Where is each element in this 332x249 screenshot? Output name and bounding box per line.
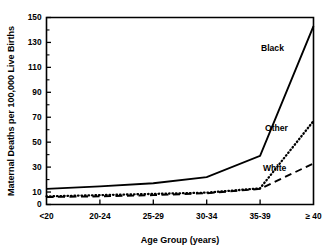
x-tick-label: ≥ 40 xyxy=(305,211,321,221)
x-tick-label: <20 xyxy=(39,211,53,221)
x-tick-label: 25-29 xyxy=(143,211,165,221)
y-axis: 01030507090110130150 xyxy=(28,12,51,209)
y-tick-label: 90 xyxy=(32,87,42,97)
series-annotation-black: Black xyxy=(261,43,284,53)
y-tick-label: 10 xyxy=(32,187,42,197)
x-axis-title: Age Group (years) xyxy=(141,235,220,245)
y-tick-label: 150 xyxy=(28,12,42,22)
maternal-mortality-chart: 01030507090110130150 <2020-2425-2930-343… xyxy=(0,0,332,249)
x-tick-label: 20-24 xyxy=(89,211,111,221)
y-tick-label: 50 xyxy=(32,137,42,147)
series-annotation-white: White xyxy=(263,163,287,173)
y-tick-label: 70 xyxy=(32,112,42,122)
x-tick-label: 30-34 xyxy=(196,211,218,221)
y-tick-label: 0 xyxy=(37,199,42,209)
x-axis: <2020-2425-2930-3435-39≥ 40 xyxy=(39,200,321,221)
series-annotation-other: Other xyxy=(265,123,289,133)
y-tick-label: 110 xyxy=(28,62,42,72)
y-axis-title: Maternal Deaths per 100,000 Live Births xyxy=(6,26,16,196)
x-tick-label: 35-39 xyxy=(249,211,271,221)
chart-canvas: 01030507090110130150 <2020-2425-2930-343… xyxy=(0,0,332,249)
series-annotations: BlackOtherWhite xyxy=(261,43,289,173)
y-tick-label: 130 xyxy=(28,37,42,47)
y-tick-label: 30 xyxy=(32,162,42,172)
